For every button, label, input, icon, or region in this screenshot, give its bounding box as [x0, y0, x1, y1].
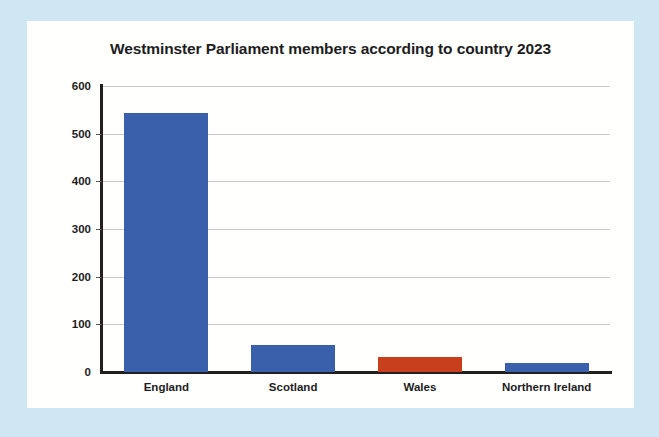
- chart-page: Westminster Parliament members according…: [0, 0, 659, 437]
- x-axis-tick-label: Northern Ireland: [502, 381, 591, 393]
- y-axis-tick: [96, 134, 102, 135]
- x-axis-labels: EnglandScotlandWalesNorthern Ireland: [103, 21, 610, 408]
- y-axis-tick: [96, 181, 102, 182]
- y-axis-tick-label: 600: [47, 80, 91, 92]
- y-axis-tick-label: 400: [47, 175, 91, 187]
- chart-card: Westminster Parliament members according…: [27, 21, 634, 408]
- y-axis-labels: 0100200300400500600: [39, 21, 91, 408]
- x-axis-tick-label: Wales: [403, 381, 436, 393]
- x-axis-tick-label: Scotland: [269, 381, 318, 393]
- y-axis-tick-label: 500: [47, 128, 91, 140]
- x-axis-tick-label: England: [144, 381, 189, 393]
- y-axis-tick: [96, 229, 102, 230]
- y-axis-tick-label: 0: [47, 366, 91, 378]
- y-axis-tick: [96, 324, 102, 325]
- y-axis-tick-label: 200: [47, 271, 91, 283]
- y-axis-tick: [96, 277, 102, 278]
- y-axis-tick-label: 100: [47, 318, 91, 330]
- y-axis-tick-label: 300: [47, 223, 91, 235]
